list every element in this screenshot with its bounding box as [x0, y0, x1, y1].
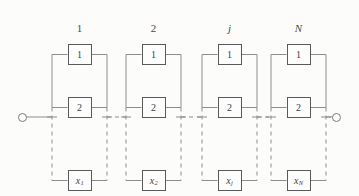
block-label: 2 [227, 103, 232, 113]
column-label-2: 2 [139, 22, 169, 34]
block-x1-col1: x1 [68, 170, 92, 191]
block-xj-col3: xj [218, 170, 242, 191]
block-2-col3: 2 [218, 97, 242, 118]
block-label: 2 [296, 103, 301, 113]
block-1-col4: 1 [287, 44, 311, 65]
block-subscript: 2 [154, 180, 157, 187]
block-label: 1 [77, 50, 82, 60]
block-1-col1: 1 [68, 44, 92, 65]
block-label: 2 [151, 103, 156, 113]
block-label: 1 [227, 50, 232, 60]
block-subscript: N [299, 180, 303, 187]
block-xN-col4: xN [287, 170, 311, 191]
block-x2-col2: x2 [142, 170, 166, 191]
input-terminal-circle [18, 113, 27, 122]
column-label-1: 1 [65, 22, 95, 34]
block-2-col4: 2 [287, 97, 311, 118]
column-label-N: N [284, 22, 314, 34]
block-1-col3: 1 [218, 44, 242, 65]
block-label: 2 [77, 103, 82, 113]
block-label: 1 [151, 50, 156, 60]
column-label-j: j [215, 22, 245, 34]
block-label: 1 [296, 50, 301, 60]
block-2-col1: 2 [68, 97, 92, 118]
output-terminal-circle [332, 113, 341, 122]
block-2-col2: 2 [142, 97, 166, 118]
block-subscript: 1 [80, 180, 83, 187]
block-subscript: j [231, 180, 233, 187]
block-1-col2: 1 [142, 44, 166, 65]
